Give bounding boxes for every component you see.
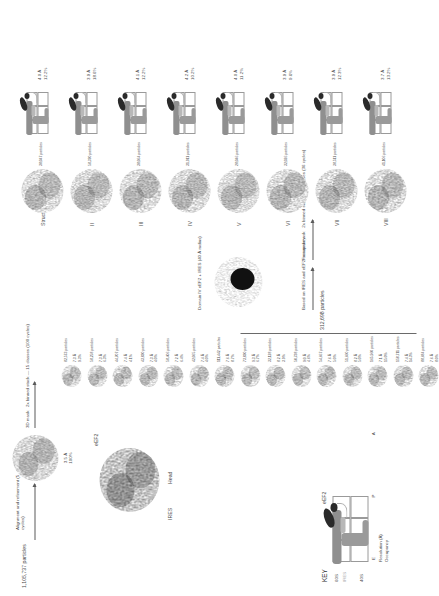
- class-occupancy: 6.3%: [102, 354, 106, 362]
- class-particles: 165,960 particles: [369, 332, 373, 362]
- key-60s-label: 60S: [333, 574, 338, 582]
- ires-tail: [323, 92, 331, 103]
- class-density-map: [162, 364, 184, 388]
- ires-tail: [274, 92, 282, 103]
- ires-shape: [129, 105, 133, 116]
- ires-shape: [31, 105, 35, 116]
- ires-tail: [127, 92, 135, 103]
- structure-resolution: 3.9 Å: [330, 70, 335, 80]
- class-occupancy: 4.0%: [204, 354, 208, 362]
- structure-particles: 31,911 particles: [185, 140, 189, 166]
- structure-occupancy: 11.2%: [238, 68, 243, 80]
- structure-name: VI: [284, 221, 290, 226]
- key-title: KEY: [320, 569, 328, 582]
- ires-shape: [227, 105, 231, 116]
- class-particles: 73,830 particles: [242, 332, 246, 362]
- schematic-grid-cell: [282, 92, 293, 106]
- map1-resolution: 3.5 Å: [62, 440, 67, 476]
- class-density-map: [137, 364, 159, 388]
- arrow-map1-to-classification1: [34, 382, 35, 428]
- structure-resolution: 4.0 Å: [232, 70, 237, 80]
- structure-density-map: [363, 168, 407, 214]
- structure-particles: 38,047 particles: [38, 140, 42, 166]
- schematic-grid-cell: [135, 92, 146, 106]
- class-particles: 111,442 particles: [216, 332, 220, 362]
- ires-tail: [29, 92, 37, 103]
- structure-schematic: [24, 84, 62, 138]
- structure-occupancy: 10.2%: [189, 68, 194, 80]
- map1-occupancy: 100%: [67, 440, 72, 476]
- class-density-map: [290, 364, 312, 388]
- class-occupancy: 8.0%: [434, 354, 438, 362]
- arrow-input-to-map1: [34, 484, 35, 540]
- class-resolution: 8.2 Å: [276, 354, 280, 362]
- input-particles-label: 1,105,737 particles: [20, 544, 26, 588]
- class-density-map: [60, 364, 82, 388]
- structure-name: V: [235, 223, 241, 226]
- structure-occupancy: 12.3%: [336, 68, 341, 80]
- structure-schematic: [122, 84, 160, 138]
- class-occupancy: 8.7%: [230, 354, 234, 362]
- eef2-domain-shape: [171, 93, 176, 99]
- 40s-subunit-foot: [289, 108, 293, 124]
- class-occupancy: 4.6%: [306, 354, 310, 362]
- ires-shape: [325, 105, 329, 116]
- structure-occupancy: 12.2%: [42, 68, 47, 80]
- eef2-domain-shape: [220, 93, 225, 99]
- class-resolution: 8.2 Å: [353, 354, 357, 362]
- structure-particles: 32,026 particles: [283, 140, 287, 166]
- structure-schematic: [220, 84, 258, 138]
- class-resolution: 7.4 Å: [404, 354, 408, 362]
- classification1-label: 3D mask 2x binned stack — 15 classes (10…: [24, 324, 29, 428]
- ires-shape: [80, 105, 84, 116]
- class-resolution: 7.1 Å: [378, 354, 382, 362]
- class-occupancy: 4.0%: [153, 354, 157, 362]
- class-particles: 51,660 particles: [344, 332, 348, 362]
- annotation-ires: IRES: [166, 508, 172, 520]
- structure-density-map: [265, 168, 309, 214]
- structure-density-map: [20, 168, 64, 214]
- class-density-map: [341, 364, 363, 388]
- class-particles: 88,684 particles: [420, 332, 424, 362]
- structure-name: IV: [186, 221, 192, 226]
- class-particles: 43,830 particles: [140, 332, 144, 362]
- 40s-subunit-foot: [142, 108, 146, 124]
- ires-shape: [374, 105, 378, 116]
- selection-bracket: [240, 333, 416, 334]
- key-sites-label: E P A: [370, 418, 375, 560]
- ires-shape: [340, 517, 345, 533]
- ires-tail: [225, 92, 233, 103]
- class-density-map: [366, 364, 388, 388]
- class-occupancy: 6.4%: [179, 354, 183, 362]
- class-occupancy: 5.0%: [332, 354, 336, 362]
- class-resolution: 7.6 Å: [225, 354, 229, 362]
- class-resolution: 7.3 Å: [149, 354, 153, 362]
- schematic-grid-cell: [233, 92, 244, 106]
- class-density-map: [392, 364, 414, 388]
- structure-schematic: [269, 84, 307, 138]
- class-resolution: 7.4 Å: [200, 354, 204, 362]
- structure-resolution: 4.2 Å: [183, 70, 188, 80]
- class-particles: 32,128 particles: [267, 332, 271, 362]
- structure-schematic: [318, 84, 356, 138]
- structure-resolution: 4.1 Å: [134, 70, 139, 80]
- class-resolution: 7.3 Å: [72, 354, 76, 362]
- class-density-map: [417, 364, 439, 388]
- class-occupancy: 5.0%: [357, 354, 361, 362]
- class-occupancy: 15.0%: [383, 352, 387, 362]
- class-resolution: 9.0 Å: [302, 354, 306, 362]
- schematic-grid-cell: [184, 92, 195, 106]
- 40s-subunit-foot: [387, 108, 391, 124]
- structure-particles: 38,064 particles: [136, 140, 140, 166]
- structure-resolution: 3.7 Å: [379, 70, 384, 80]
- class-density-map: [264, 364, 286, 388]
- class-density-map: [239, 364, 261, 388]
- class-particles: 58,258 particles: [89, 332, 93, 362]
- ires-tail: [176, 92, 184, 103]
- structure-occupancy: 13.2%: [385, 68, 390, 80]
- structure-particles: 28,046 particles: [234, 140, 238, 166]
- structure-resolution: 3.9 Å: [281, 70, 286, 80]
- schematic-grid-cell: [380, 92, 391, 106]
- key-resolution-row-label: Resolution (Å): [377, 534, 382, 562]
